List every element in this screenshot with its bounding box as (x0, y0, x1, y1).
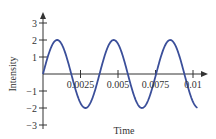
x-tick-label: 0.0025 (67, 79, 95, 90)
y-axis-title: Intensity (7, 57, 18, 92)
y-tick-label: 2 (32, 35, 37, 46)
intensity-time-chart: −3−2−11230.00250.0050.00750.01 Time Inte… (0, 0, 216, 139)
y-tick-label: −1 (26, 86, 37, 97)
y-tick-label: −2 (26, 103, 37, 114)
x-axis-arrow-icon (201, 71, 208, 77)
x-tick-label: 0.005 (107, 79, 130, 90)
y-tick-label: 3 (32, 18, 37, 29)
x-tick-label: 0.01 (184, 79, 202, 90)
y-tick-label: −3 (26, 120, 37, 131)
x-axis-title: Time (114, 125, 135, 136)
x-tick-label: 0.0075 (142, 79, 170, 90)
y-tick-label: 1 (32, 52, 37, 63)
y-axis-arrow-icon (40, 12, 46, 19)
